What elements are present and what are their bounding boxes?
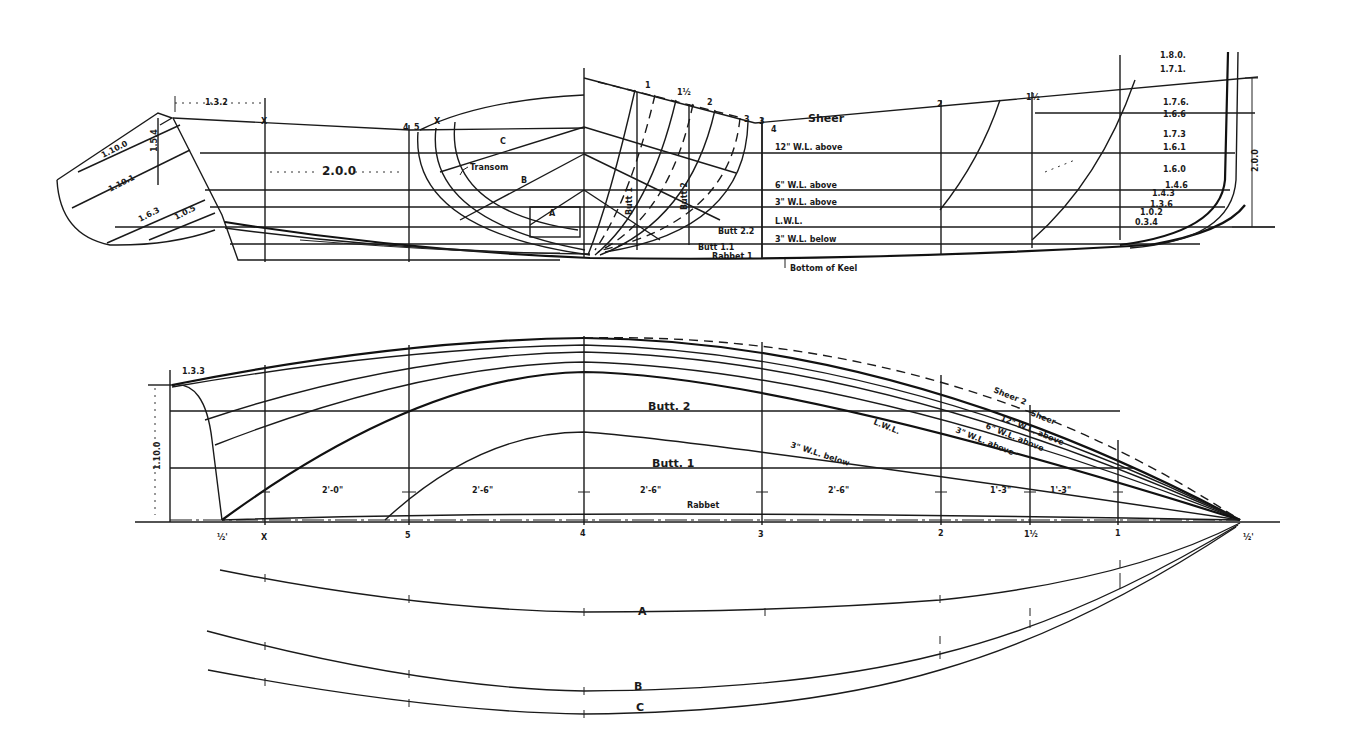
hb-sheer2 (584, 338, 1240, 520)
wl3b-label: 3" W.L. below (775, 235, 837, 244)
svg-text:2'-6": 2'-6" (640, 486, 661, 495)
butt1-label: Butt. 1 (652, 457, 694, 470)
hb-station-5: 2 (938, 529, 944, 538)
hb-spacings: 2'-0" 2'-6" 2'-6" 2'-6" 1'-3" 1'-3" (262, 486, 1123, 495)
transom-dim-2: 1.10.1 (107, 173, 137, 194)
wl3-label: 3" W.L. above (775, 198, 837, 207)
diag-a-label-profile: A (549, 209, 556, 218)
svg-text:1.6.6: 1.6.6 (1163, 110, 1186, 119)
hb-station-1: X (261, 533, 268, 542)
butt2-vert-label: Butt 2 (680, 182, 689, 210)
butt2-label: Butt. 2 (648, 400, 690, 413)
wl6-label: 6" W.L. above (775, 181, 837, 190)
diag-c-label-profile: C (500, 137, 506, 146)
station-2-label: 2 (937, 100, 943, 109)
transom-rake-dim: 1.5.4 (150, 129, 159, 152)
svg-text:1.4.3: 1.4.3 (1152, 189, 1175, 198)
stem-offsets: 1.8.0. 1.7.1. 1.7.6. 1.6.6 1.7.3 1.6.1 1… (1135, 51, 1189, 227)
half-breadth-view: 1.10.0 1.3.3 Butt. 2 Butt. 1 Sheer 2 She… (135, 336, 1280, 542)
transom-dim-4: 1.0.5 (173, 203, 198, 222)
svg-text:1.6.1: 1.6.1 (1163, 143, 1186, 152)
svg-text:1.7.3: 1.7.3 (1163, 130, 1186, 139)
midbody-dim: 2.0.0 (322, 164, 356, 178)
svg-text:1'-3": 1'-3" (990, 486, 1011, 495)
svg-text:2'-0": 2'-0" (322, 486, 343, 495)
diagonal-a (220, 523, 1240, 612)
butt22-label: Butt 2.2 (718, 227, 754, 236)
butt1-vert-label: Butt 1 (625, 187, 634, 215)
diagonals-view: A B C (207, 523, 1240, 718)
transom-label: Transom (470, 163, 508, 172)
svg-text:0.3.4: 0.3.4 (1135, 218, 1158, 227)
wl12-label: 12" W.L. above (775, 143, 843, 152)
diagonal-b (207, 525, 1238, 691)
hb-wl3b-label: 3" W.L. below (789, 440, 851, 468)
boat-lines-drawing: 1.10.0 1.10.1 1.6.3 1.0.5 1.5.4 1.3.2 Sh… (0, 0, 1349, 753)
bp-4-label: 4 (771, 125, 777, 134)
hb-sheer2-label: Sheer 2 (992, 386, 1027, 407)
svg-text:2'-6": 2'-6" (828, 486, 849, 495)
hb-rabbet-label: Rabbet (687, 501, 719, 510)
keel-label: Bottom of Keel (790, 264, 858, 273)
svg-text:1.0.2: 1.0.2 (1140, 208, 1163, 217)
profile-view: 1.10.0 1.10.1 1.6.3 1.0.5 1.5.4 1.3.2 Sh… (57, 51, 1275, 273)
svg-text:1.6.0: 1.6.0 (1163, 165, 1186, 174)
transom-top-dim: 1.3.2 (205, 98, 228, 107)
bp-1-label: 1 (645, 81, 651, 90)
sheer-label: Sheer (808, 112, 845, 125)
bp-2-label: 2 (707, 98, 713, 107)
profile-stations (265, 55, 1120, 262)
transom-expansion: 1.10.0 1.10.1 1.6.3 1.0.5 1.5.4 (57, 113, 215, 245)
diagonal-c-label: C (636, 701, 644, 714)
diagonal-b-label: B (634, 680, 642, 693)
diag-b-label-profile: B (521, 176, 527, 185)
overall-height-dim: 2.0.0 (1251, 149, 1260, 172)
bp-1half-label: 1½ (677, 87, 691, 97)
station-x-label: X (261, 117, 268, 126)
svg-text:1'-3": 1'-3" (1050, 486, 1071, 495)
hb-station-3: 4 (580, 529, 586, 538)
transom-half-dim: 1.3.3 (182, 367, 205, 376)
hb-station-2: 5 (405, 531, 411, 540)
bp-3b-label: 3 (759, 117, 765, 126)
svg-text:1.7.6.: 1.7.6. (1163, 98, 1189, 107)
station-4-label: 4 (403, 123, 409, 132)
sheer-line (173, 77, 1258, 130)
svg-text:2'-6": 2'-6" (472, 486, 493, 495)
lwl-label: L.W.L. (775, 217, 802, 226)
profile-waterlines (115, 113, 1275, 244)
hb-station-0: ½' (217, 532, 228, 542)
bp-3a-label: 3 (744, 115, 750, 124)
butt1-label: Butt 1.1 (698, 243, 735, 252)
svg-text:1.7.1.: 1.7.1. (1160, 65, 1186, 74)
hb-station-6: 1½ (1024, 529, 1038, 539)
hb-station-8: ½' (1243, 532, 1254, 542)
diagonal-a-label: A (638, 605, 647, 618)
svg-text:1.8.0.: 1.8.0. (1160, 51, 1186, 60)
transom-height-dim: 1.10.0 (153, 441, 162, 470)
hb-station-4: 3 (758, 530, 764, 539)
station-1half-label: 1½ (1026, 92, 1040, 102)
station-5-label: 5 (414, 123, 420, 132)
hb-station-7: 1 (1115, 529, 1121, 538)
